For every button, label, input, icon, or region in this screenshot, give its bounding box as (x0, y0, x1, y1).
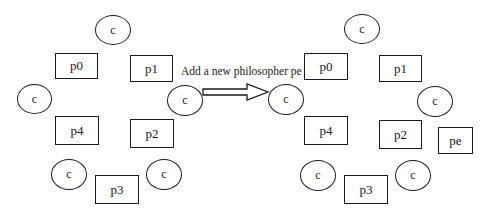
node-label: p2 (146, 126, 159, 142)
node-label: c (410, 168, 415, 183)
philosopher-node-p2: p2 (130, 119, 174, 148)
node-label: c (359, 22, 364, 37)
philosopher-node-p1: p1 (379, 55, 422, 82)
chopstick-node-c-right: c (167, 85, 203, 116)
philosopher-node-pe: pe (438, 127, 473, 154)
node-label: p1 (145, 61, 158, 77)
philosopher-node-p0: p0 (304, 53, 348, 80)
philosopher-node-p1: p1 (130, 55, 173, 82)
chopstick-node-c-bottom-left: c (51, 159, 87, 190)
node-label: pe (449, 133, 461, 149)
node-label: c (161, 167, 166, 182)
node-label: c (432, 94, 437, 109)
node-label: p1 (394, 61, 407, 77)
philosopher-node-p4: p4 (55, 116, 99, 145)
node-label: c (315, 168, 320, 183)
node-label: p0 (320, 59, 333, 75)
chopstick-node-c-bottom-left: c (300, 160, 336, 191)
philosopher-node-p4: p4 (304, 116, 348, 145)
node-label: p4 (71, 123, 84, 139)
chopstick-node-c-bottom-right: c (395, 160, 431, 191)
chopstick-node-c-bottom-right: c (146, 159, 182, 190)
chopstick-node-c-left: c (268, 84, 304, 115)
node-label: c (66, 167, 71, 182)
node-label: c (110, 23, 115, 38)
node-label: c (32, 92, 37, 107)
philosopher-node-p2: p2 (379, 120, 422, 149)
philosopher-node-p3: p3 (344, 175, 388, 204)
node-label: p4 (320, 123, 333, 139)
node-label: p0 (70, 58, 83, 74)
philosopher-node-p3: p3 (95, 175, 139, 204)
philosopher-node-p0: p0 (55, 53, 98, 79)
chopstick-node-c-right: c (417, 86, 453, 117)
chopstick-node-c-top: c (95, 15, 131, 45)
node-label: p3 (360, 182, 373, 198)
node-label: c (283, 92, 288, 107)
node-label: p2 (394, 127, 407, 143)
chopstick-node-c-top: c (344, 14, 380, 44)
philosopher-diagram: Add a new philosopher pe cp0p1ccp4p2ccp3… (0, 0, 485, 217)
node-label: c (182, 93, 187, 108)
node-label: p3 (111, 182, 124, 198)
chopstick-node-c-left: c (17, 84, 52, 114)
